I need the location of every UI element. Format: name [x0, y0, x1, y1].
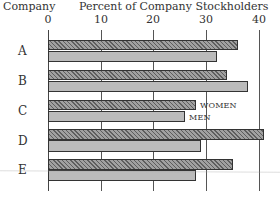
bar-a-women — [48, 40, 238, 50]
value-axis-title: Percent of Company Stockholders — [79, 0, 269, 13]
bar-d-women — [48, 129, 264, 140]
tick-label-20: 20 — [146, 13, 160, 26]
category-label-c: C — [18, 104, 27, 118]
legend-women: WOMEN — [200, 101, 237, 110]
category-label-a: A — [18, 44, 27, 58]
tick-label-30: 30 — [199, 13, 213, 26]
bar-a-men — [48, 51, 217, 62]
bar-c-men — [48, 111, 185, 122]
category-label-b: B — [18, 74, 27, 88]
tick-label-40: 40 — [252, 13, 266, 26]
tick-label-10: 10 — [94, 13, 108, 26]
tick-label-0: 0 — [45, 13, 52, 26]
bar-e-women — [48, 159, 233, 170]
bar-b-men — [48, 81, 248, 92]
category-axis-title: Company — [3, 0, 55, 13]
bar-c-women — [48, 100, 196, 110]
gridline-40 — [259, 30, 260, 191]
bar-d-men — [48, 140, 201, 152]
legend-men: MEN — [189, 113, 211, 122]
category-label-d: D — [18, 134, 28, 148]
bar-b-women — [48, 70, 227, 80]
